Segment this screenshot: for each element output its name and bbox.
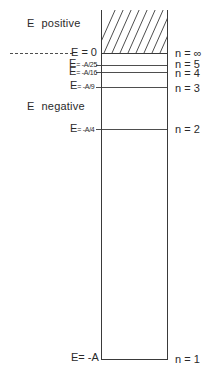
region-negative-word: negative	[42, 100, 85, 112]
region-label-negative: Enegative	[27, 100, 85, 112]
region-label-positive: Epositive	[27, 17, 80, 29]
n-label-4: n = 4	[175, 68, 200, 79]
energy-label-n4: E= -A/16	[69, 66, 97, 78]
energy-label-n1: E= -A	[71, 352, 99, 363]
energy-label-n3: E= -A/9	[70, 80, 94, 92]
region-negative-e: E	[27, 100, 35, 112]
energy-label-n2: E= -A/4	[70, 123, 94, 135]
n-label-3: n = 3	[175, 83, 200, 94]
region-positive-e: E	[27, 17, 35, 29]
n-label-1: n = 1	[175, 354, 200, 365]
n-label-2: n = 2	[175, 124, 200, 135]
region-positive-word: positive	[42, 17, 81, 29]
